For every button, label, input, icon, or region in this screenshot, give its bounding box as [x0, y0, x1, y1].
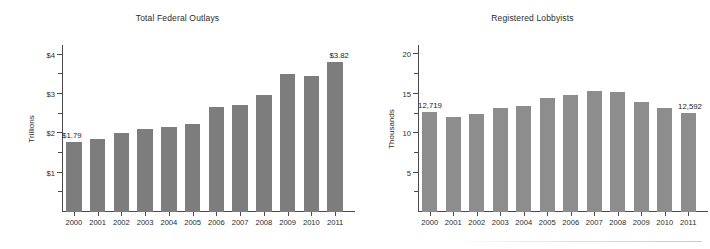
bar-value-label: $1.79: [62, 131, 82, 140]
x-axis-tick-label: 2011: [327, 218, 343, 227]
x-axis-tick: [665, 212, 666, 216]
bar-slot: 2004: [516, 45, 531, 212]
x-axis-tick: [169, 212, 170, 216]
x-axis-tick: [288, 212, 289, 216]
bar-slot: 2011$3.82: [327, 45, 343, 212]
y-axis-minor-tick: [58, 113, 62, 114]
plot-area-outlays: Trillions 2000$1.79200120022003200420052…: [62, 45, 347, 212]
bar-slot: 2002: [114, 45, 130, 212]
chart-title: Total Federal Outlays: [0, 13, 355, 23]
x-axis-tick: [571, 212, 572, 216]
x-axis-tick-label: 2009: [279, 218, 296, 227]
bar[interactable]: [634, 102, 649, 212]
bar[interactable]: [540, 98, 555, 212]
bar[interactable]: [563, 95, 578, 212]
bar-slot: 2000$1.79: [66, 45, 82, 212]
y-axis-minor-tick: [414, 73, 418, 74]
y-axis-tick: [57, 172, 62, 173]
bar-series-outlays: 2000$1.792001200220032004200520062007200…: [62, 45, 347, 212]
x-axis-tick: [430, 212, 431, 216]
x-axis-tick: [264, 212, 265, 216]
bar[interactable]: [657, 108, 672, 212]
y-axis-tick-label: $2: [47, 129, 55, 138]
x-axis-tick: [547, 212, 548, 216]
x-axis-tick-label: 2008: [609, 218, 626, 227]
x-axis-tick: [641, 212, 642, 216]
bar[interactable]: [161, 127, 177, 212]
y-axis-tick-label: $1: [47, 168, 55, 177]
bar[interactable]: [280, 74, 296, 212]
bar[interactable]: [327, 62, 343, 212]
bar[interactable]: [446, 117, 461, 212]
x-axis-tick-label: 2005: [539, 218, 556, 227]
x-axis-tick-label: 2000: [421, 218, 438, 227]
bar[interactable]: [587, 91, 602, 212]
bar[interactable]: [185, 124, 201, 212]
bar-series-lobbyists: 200012,719200120022003200420052006200720…: [418, 45, 700, 212]
x-axis-tick: [98, 212, 99, 216]
x-axis-tick: [74, 212, 75, 216]
y-axis-minor-tick: [58, 152, 62, 153]
bar[interactable]: [493, 108, 508, 212]
x-axis-tick-label: 2004: [160, 218, 177, 227]
bar[interactable]: [422, 112, 437, 212]
bar-slot: 200012,719: [422, 45, 437, 212]
bar[interactable]: [681, 113, 696, 212]
y-axis-tick-label: 15: [403, 89, 411, 98]
bar[interactable]: [232, 105, 248, 212]
bar[interactable]: [209, 107, 225, 212]
bar[interactable]: [137, 129, 153, 212]
y-axis-tick-label: 10: [403, 129, 411, 138]
bar-slot: 2008: [256, 45, 272, 212]
x-axis-tick-label: 2007: [586, 218, 603, 227]
x-axis-tick-label: 2006: [208, 218, 225, 227]
bar-slot: 2006: [563, 45, 578, 212]
x-axis-tick: [311, 212, 312, 216]
bar[interactable]: [114, 133, 130, 212]
x-axis-tick-label: 2009: [633, 218, 650, 227]
x-axis-tick-label: 2003: [137, 218, 154, 227]
chart-panel-registered-lobbyists: Registered Lobbyists Thousands 200012,71…: [355, 0, 710, 249]
x-axis-tick: [688, 212, 689, 216]
x-axis-tick-label: 2006: [562, 218, 579, 227]
x-axis-tick-label: 2011: [680, 218, 696, 227]
x-axis-tick: [240, 212, 241, 216]
chart-title: Registered Lobbyists: [355, 13, 710, 23]
bar[interactable]: [304, 76, 320, 212]
x-axis-tick: [594, 212, 595, 216]
y-axis-minor-tick: [414, 113, 418, 114]
plot-area-lobbyists: Thousands 200012,71920012002200320042005…: [418, 45, 700, 212]
bar[interactable]: [256, 95, 272, 212]
x-axis-tick: [453, 212, 454, 216]
bar[interactable]: [610, 92, 625, 212]
bar-slot: 2004: [161, 45, 177, 212]
y-axis-minor-tick: [58, 73, 62, 74]
bar[interactable]: [66, 142, 82, 212]
bar[interactable]: [516, 106, 531, 212]
bar-slot: 2003: [137, 45, 153, 212]
y-axis-tick: [57, 54, 62, 55]
y-axis-tick: [57, 93, 62, 94]
y-axis-tick: [413, 132, 418, 133]
y-axis-minor-tick: [414, 152, 418, 153]
bar[interactable]: [469, 114, 484, 212]
y-axis-tick-label: $4: [47, 50, 55, 59]
y-axis-tick-label: 20: [403, 50, 411, 59]
bar-value-label: 12,719: [418, 101, 442, 110]
two-panel-bar-chart-figure: Total Federal Outlays Trillions 2000$1.7…: [0, 0, 710, 249]
y-axis-tick: [413, 93, 418, 94]
x-axis-tick-label: 2002: [113, 218, 130, 227]
x-axis-tick-label: 2005: [184, 218, 201, 227]
bar-value-label: $3.82: [329, 51, 349, 60]
y-axis-tick-label: $3: [47, 90, 55, 99]
x-axis-tick-label: 2001: [445, 218, 462, 227]
y-axis-label: Trillions: [27, 115, 36, 142]
bar[interactable]: [90, 139, 106, 212]
x-axis-tick-label: 2007: [232, 218, 249, 227]
y-axis-minor-tick: [58, 191, 62, 192]
x-axis-tick-label: 2002: [468, 218, 485, 227]
bar-slot: 2010: [657, 45, 672, 212]
x-axis-tick-label: 2001: [89, 218, 106, 227]
x-axis-tick: [500, 212, 501, 216]
y-axis-tick-label: 5: [407, 168, 411, 177]
